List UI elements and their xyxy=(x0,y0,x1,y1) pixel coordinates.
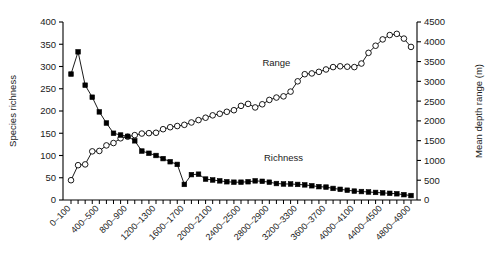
data-point-marker xyxy=(132,139,137,144)
y-axis-left-tick-label: 0 xyxy=(51,194,56,205)
data-point-marker xyxy=(90,95,95,100)
data-point-marker xyxy=(267,180,272,185)
data-point-marker xyxy=(224,109,230,115)
data-point-marker xyxy=(401,36,407,42)
data-point-marker xyxy=(97,148,103,154)
data-point-marker xyxy=(387,32,393,38)
data-point-marker xyxy=(231,107,237,113)
data-point-marker xyxy=(210,113,216,119)
data-point-marker xyxy=(168,159,173,164)
y-axis-left: 050100150200250300350400 xyxy=(40,16,63,205)
data-point-marker xyxy=(259,101,265,107)
data-point-marker xyxy=(409,193,414,198)
data-point-marker xyxy=(97,110,102,115)
data-point-marker xyxy=(316,69,322,75)
data-point-marker xyxy=(147,151,152,156)
series-annotations: RangeRichness xyxy=(262,57,303,163)
data-point-marker xyxy=(182,122,188,128)
data-point-marker xyxy=(75,162,81,168)
series-annotation-richness: Richness xyxy=(264,152,303,163)
series-richness xyxy=(69,50,414,198)
chart-figure: 050100150200250300350400 050010001500200… xyxy=(0,0,497,272)
y-axis-right-tick-label: 0 xyxy=(424,194,429,205)
data-point-marker xyxy=(146,130,152,136)
data-point-marker xyxy=(104,121,109,126)
y-axis-left-tick-label: 350 xyxy=(40,39,56,50)
data-point-marker xyxy=(104,143,110,149)
y-axis-left-tick-label: 200 xyxy=(40,105,56,116)
data-point-marker xyxy=(111,140,117,146)
data-point-marker xyxy=(302,71,308,77)
data-point-marker xyxy=(140,149,145,154)
data-point-marker xyxy=(359,189,364,194)
y-axis-right-tick-label: 500 xyxy=(424,175,440,186)
data-point-marker xyxy=(189,120,195,126)
y-axis-right: 050010001500200025003000350040004500 xyxy=(417,16,445,205)
data-point-marker xyxy=(323,67,329,73)
data-point-marker xyxy=(380,191,385,196)
y-axis-right-tick-label: 4000 xyxy=(424,36,445,47)
data-point-marker xyxy=(337,64,343,70)
y-axis-right-tick-label: 1500 xyxy=(424,135,445,146)
series-line xyxy=(71,52,411,196)
data-point-marker xyxy=(238,103,244,109)
data-point-marker xyxy=(281,182,286,187)
data-point-marker xyxy=(352,189,357,194)
x-axis: 0–100400–500800–9001200–13001600–1700200… xyxy=(48,200,417,242)
data-point-marker xyxy=(189,172,194,177)
data-point-marker xyxy=(331,186,336,191)
data-point-marker xyxy=(246,179,251,184)
data-point-marker xyxy=(132,132,138,138)
data-point-marker xyxy=(317,184,322,189)
data-point-marker xyxy=(232,180,237,185)
data-point-marker xyxy=(345,188,350,193)
data-point-marker xyxy=(161,156,166,161)
data-point-marker xyxy=(83,83,88,88)
data-point-marker xyxy=(274,181,279,186)
data-point-marker xyxy=(217,111,223,117)
data-point-marker xyxy=(295,182,300,187)
y-axis-left-tick-label: 50 xyxy=(45,172,56,183)
data-point-marker xyxy=(245,101,251,107)
data-point-marker xyxy=(125,134,130,139)
data-point-marker xyxy=(288,89,294,95)
data-point-marker xyxy=(288,182,293,187)
data-point-marker xyxy=(210,178,215,183)
data-point-marker xyxy=(154,153,159,158)
y-axis-left-tick-label: 250 xyxy=(40,83,56,94)
data-point-marker xyxy=(69,72,74,77)
data-point-marker xyxy=(281,94,287,100)
data-point-marker xyxy=(260,179,265,184)
data-point-marker xyxy=(111,131,116,136)
data-point-marker xyxy=(203,177,208,182)
data-point-marker xyxy=(196,117,202,123)
x-axis-tick-label: 0–100 xyxy=(48,203,73,228)
data-point-marker xyxy=(338,187,343,192)
data-point-marker xyxy=(394,31,400,37)
data-point-marker xyxy=(174,123,180,129)
data-point-marker xyxy=(252,105,258,111)
data-point-marker xyxy=(302,183,307,188)
data-point-marker xyxy=(274,95,280,101)
data-point-marker xyxy=(295,79,301,85)
data-point-marker xyxy=(82,162,88,168)
y-axis-right-tick-label: 3500 xyxy=(424,56,445,67)
y-axis-right-tick-label: 4500 xyxy=(424,16,445,27)
data-point-marker xyxy=(330,64,336,70)
data-point-marker xyxy=(366,190,371,195)
data-point-marker xyxy=(395,191,400,196)
data-point-marker xyxy=(387,191,392,196)
y-axis-left-tick-label: 150 xyxy=(40,128,56,139)
data-point-marker xyxy=(239,180,244,185)
axis-titles: Species richnessMean depth range (m) xyxy=(7,64,484,158)
data-point-marker xyxy=(309,71,315,77)
y-axis-left-tick-label: 400 xyxy=(40,16,56,27)
x-axis-tick-label: 400–500 xyxy=(69,203,101,235)
data-point-marker xyxy=(182,182,187,187)
data-point-marker xyxy=(175,162,180,167)
data-point-marker xyxy=(167,124,173,130)
series-annotation-range: Range xyxy=(262,57,290,68)
data-point-marker xyxy=(310,183,315,188)
data-point-marker xyxy=(267,97,273,103)
data-point-marker xyxy=(89,149,95,155)
